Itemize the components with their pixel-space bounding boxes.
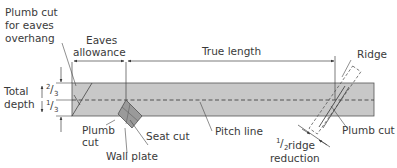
label-pitch-line: Pitch line: [215, 125, 263, 137]
svg-text:for eaves: for eaves: [5, 19, 54, 31]
label-wall-plate: Wall plate: [106, 150, 158, 162]
label-plumb-cut-eaves: Plumb cut: [5, 6, 58, 18]
label-total-depth: Total: [3, 85, 29, 97]
label-plumb-cut-right: Plumb cut: [342, 124, 395, 136]
label-seat-cut: Seat cut: [146, 130, 190, 142]
label-half-ridge-reduction: ridge: [288, 139, 315, 151]
svg-text:overhang: overhang: [5, 32, 55, 44]
svg-text:3: 3: [54, 90, 58, 98]
label-true-length: True length: [201, 45, 261, 57]
label-ridge: Ridge: [357, 48, 387, 60]
label-eaves-allowance: Eaves: [86, 34, 117, 46]
label-plumb-cut-left: Plumb: [82, 124, 115, 136]
svg-text:cut: cut: [82, 136, 99, 148]
svg-text:reduction: reduction: [270, 152, 320, 164]
svg-text:3: 3: [54, 106, 58, 114]
svg-text:allowance: allowance: [73, 46, 126, 58]
rafter-diagram: Plumb cut for eaves overhang Eaves allow…: [0, 0, 397, 168]
svg-text:depth: depth: [4, 98, 35, 110]
